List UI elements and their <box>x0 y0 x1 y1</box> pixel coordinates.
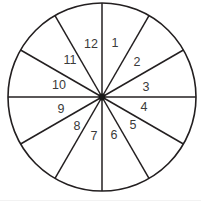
sector-label-10: 10 <box>52 78 66 92</box>
sector-label-7: 7 <box>91 129 98 143</box>
sector-label-3: 3 <box>143 80 150 94</box>
sector-label-5: 5 <box>130 118 137 132</box>
circle-sector-figure: 123456789101112 <box>0 0 201 206</box>
sector-label-2: 2 <box>134 55 141 69</box>
sector-label-11: 11 <box>64 53 77 67</box>
sector-label-1: 1 <box>112 36 119 50</box>
sector-label-8: 8 <box>74 119 81 133</box>
sector-label-12: 12 <box>84 37 98 51</box>
sector-label-6: 6 <box>111 128 118 142</box>
center-hub <box>99 94 106 101</box>
sector-label-9: 9 <box>58 102 65 116</box>
sector-label-4: 4 <box>141 100 148 114</box>
footer-divider <box>0 200 201 201</box>
pie-diagram-svg: 123456789101112 <box>0 0 201 206</box>
